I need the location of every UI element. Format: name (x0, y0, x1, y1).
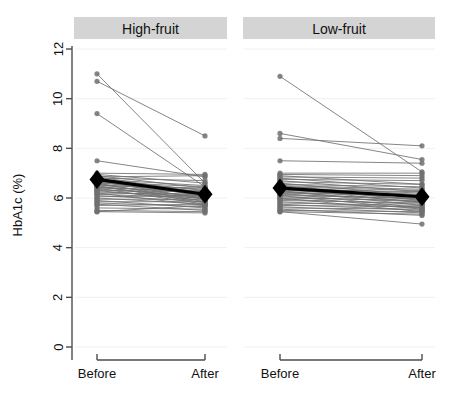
subject-point-before (277, 131, 282, 136)
x-axis-tick-label: After (408, 366, 436, 381)
subject-point-after (202, 178, 207, 183)
subject-point-before (94, 79, 99, 84)
subject-point-before (94, 209, 99, 214)
subject-point-before (277, 209, 282, 214)
panel-strip-label: Low-fruit (312, 21, 366, 37)
subject-point-before (277, 74, 282, 79)
subject-point-before (94, 111, 99, 116)
y-axis-tick-label: 2 (51, 294, 66, 301)
subject-point-after (419, 143, 424, 148)
y-axis-tick-label: 6 (51, 194, 66, 201)
subject-point-after (419, 221, 424, 226)
subject-point-after (202, 210, 207, 215)
x-axis-tick-label: Before (78, 366, 116, 381)
hba1c-before-after-spaghetti-plot: HbA1c (%) 024681012 High-fruitBeforeAfte… (0, 0, 453, 419)
y-axis-tick-label: 4 (51, 244, 66, 251)
panel-strip-label: High-fruit (122, 21, 179, 37)
subject-point-after (419, 161, 424, 166)
x-axis-tick-label: After (191, 366, 219, 381)
subject-point-after (202, 133, 207, 138)
subject-point-after (419, 212, 424, 217)
subject-point-before (277, 158, 282, 163)
chart-figure: HbA1c (%) 024681012 High-fruitBeforeAfte… (0, 0, 453, 419)
x-axis-tick-label: Before (261, 366, 299, 381)
panels-container: High-fruitBeforeAfterLow-fruitBeforeAfte… (74, 17, 436, 381)
y-axis-tick-label: 10 (51, 91, 66, 105)
subject-point-before (94, 158, 99, 163)
subject-point-after (202, 173, 207, 178)
panel-high-fruit: High-fruitBeforeAfter (74, 17, 227, 381)
y-axis-tick-label: 0 (51, 343, 66, 350)
y-axis-tick-label: 12 (51, 42, 66, 56)
subject-point-before (277, 136, 282, 141)
y-axis-title: HbA1c (%) (10, 174, 25, 237)
subject-point-before (94, 71, 99, 76)
panel-low-fruit: Low-fruitBeforeAfter (243, 17, 436, 381)
y-axis-tick-label: 8 (51, 145, 66, 152)
